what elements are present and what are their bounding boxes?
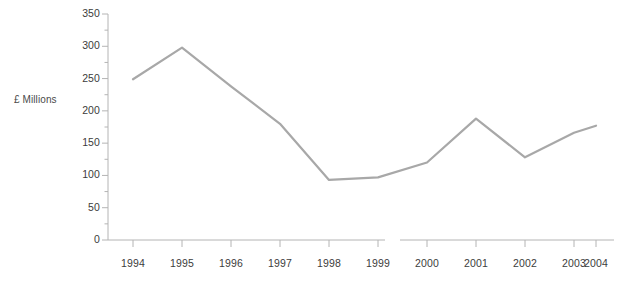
y-axis-tick-label: 250 <box>64 72 100 84</box>
y-axis-tick-label: 50 <box>64 201 100 213</box>
y-axis-tick-label: 200 <box>64 104 100 116</box>
x-axis <box>108 240 614 247</box>
x-axis-tick-label: 1996 <box>209 257 253 269</box>
x-axis-tick-label: 2001 <box>454 257 498 269</box>
x-axis-tick-label: 1995 <box>160 257 204 269</box>
x-axis-tick-label: 1999 <box>356 257 400 269</box>
y-axis-tick-label: 300 <box>64 39 100 51</box>
line-chart: £ Millions 050100150200250300350 1994199… <box>0 0 629 283</box>
y-axis-tick-label: 150 <box>64 136 100 148</box>
x-axis-tick-label: 1994 <box>111 257 155 269</box>
series-line <box>133 48 596 180</box>
x-axis-tick-label: 1997 <box>258 257 302 269</box>
y-axis <box>102 14 108 240</box>
x-axis-tick-label: 2002 <box>503 257 547 269</box>
data-series-group <box>133 48 596 180</box>
x-axis-tick-label: 2004 <box>574 257 618 269</box>
y-axis-tick-label: 100 <box>64 168 100 180</box>
x-axis-tick-label: 2000 <box>405 257 449 269</box>
x-axis-tick-label: 1998 <box>307 257 351 269</box>
y-axis-tick-label: 0 <box>64 233 100 245</box>
y-axis-tick-label: 350 <box>64 7 100 19</box>
